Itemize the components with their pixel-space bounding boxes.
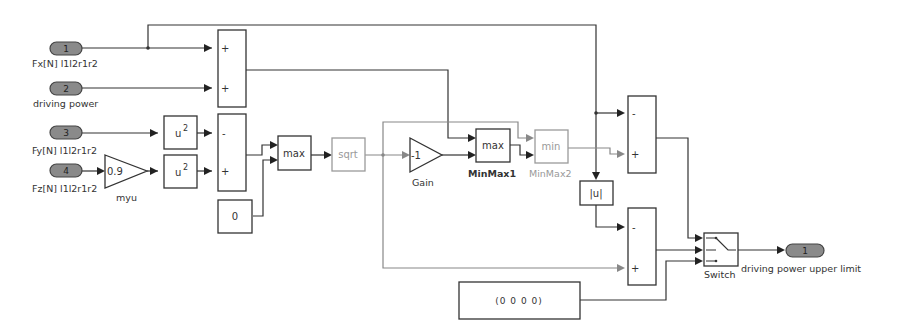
sum1-sign-2: +	[221, 83, 229, 94]
wire-minmax2-sum3	[567, 148, 618, 154]
max-block-text: max	[283, 148, 305, 159]
minmax1-label: MinMax1	[468, 168, 516, 179]
junction-dot	[146, 46, 150, 50]
minmax2-block[interactable]: min MinMax2	[529, 130, 572, 179]
sum1-sign-1: +	[221, 43, 229, 54]
myu-gain-label: myu	[116, 192, 137, 203]
square2-sup: 2	[183, 163, 188, 172]
inport-3-number: 3	[63, 128, 69, 138]
minmax1-block[interactable]: max MinMax1	[468, 129, 516, 179]
minmax1-text: max	[482, 140, 504, 151]
sum2-sign-1: -	[222, 128, 226, 139]
outport-1-number: 1	[802, 246, 808, 256]
square2-text: u	[175, 167, 181, 178]
sum4-sign-2: +	[631, 263, 639, 274]
inport-1-number: 1	[63, 44, 69, 54]
inport-2[interactable]: 2 driving power	[33, 82, 98, 109]
outport-1[interactable]: 1 driving power upper limit	[741, 244, 861, 274]
square1-text: u	[175, 128, 181, 139]
sum3-sign-2: +	[631, 149, 639, 160]
inport-4[interactable]: 4 Fz[N] l1l2r1r2	[32, 164, 97, 194]
constant-zero-value: 0	[232, 211, 238, 222]
inport-2-number: 2	[63, 84, 69, 94]
sum2-sign-2: +	[221, 166, 229, 177]
sum3-sign-1: -	[632, 108, 636, 119]
minmax2-label: MinMax2	[529, 168, 572, 179]
constant-vector-block[interactable]: (0 0 0 0)	[459, 282, 580, 319]
outport-1-label: driving power upper limit	[741, 263, 861, 274]
sum4-sign-1: -	[632, 222, 636, 233]
gain-value: -1	[411, 150, 421, 161]
wire-const0-max	[253, 160, 270, 216]
sum-block-1[interactable]: + +	[218, 30, 246, 107]
sum-block-3[interactable]: - +	[628, 96, 656, 173]
square-block-1[interactable]: u 2	[164, 116, 197, 149]
junction-dot	[381, 153, 385, 157]
sum-block-4[interactable]: - +	[628, 208, 656, 285]
inport-1[interactable]: 1 Fx[N] l1l2r1r2	[32, 42, 98, 69]
inport-2-label: driving power	[33, 98, 98, 109]
simulink-diagram: 1 Fx[N] l1l2r1r2 2 driving power 3 Fy[N]…	[0, 0, 898, 331]
max-block[interactable]: max	[278, 136, 311, 170]
sum-block-2[interactable]: - +	[218, 114, 246, 191]
constant-zero-block[interactable]: 0	[218, 200, 252, 233]
abs-block[interactable]: |u|	[580, 181, 613, 205]
switch-label: Switch	[704, 269, 735, 280]
wire-sum3-switch	[656, 138, 696, 238]
gain-label: Gain	[412, 177, 434, 188]
square-block-2[interactable]: u 2	[164, 155, 197, 188]
inport-3-label: Fy[N] l1l2r1r2	[32, 145, 97, 156]
diagram-svg: 1 Fx[N] l1l2r1r2 2 driving power 3 Fy[N]…	[0, 0, 898, 331]
switch-block[interactable]: Switch	[704, 233, 738, 280]
inport-4-label: Fz[N] l1l2r1r2	[32, 183, 97, 194]
inport-4-number: 4	[63, 166, 69, 176]
minmax2-text: min	[542, 141, 561, 152]
myu-gain-value: 0.9	[107, 166, 123, 177]
arrowheads	[97, 44, 785, 272]
sqrt-block-text: sqrt	[338, 149, 358, 160]
wire-minmax1-minmax2	[510, 145, 528, 155]
wire-abs-sum4	[596, 205, 618, 227]
wire-sum2-max	[246, 145, 270, 155]
wire-in1-top-branch	[148, 25, 596, 113]
inport-3[interactable]: 3 Fy[N] l1l2r1r2	[32, 126, 97, 156]
myu-gain-block[interactable]: 0.9 myu	[105, 155, 147, 203]
square1-sup: 2	[183, 124, 188, 133]
sqrt-block[interactable]: sqrt	[332, 138, 365, 171]
constant-vector-value: (0 0 0 0)	[495, 296, 543, 306]
wire-sum1-minmax1	[246, 70, 470, 138]
inport-1-label: Fx[N] l1l2r1r2	[32, 58, 98, 69]
abs-block-text: |u|	[589, 188, 602, 200]
gain-block[interactable]: -1 Gain	[410, 138, 442, 188]
